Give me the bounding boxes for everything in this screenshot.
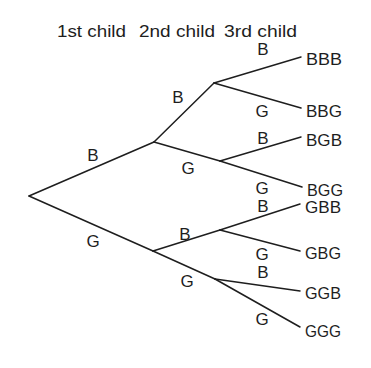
branch-label-gg: G (180, 272, 193, 291)
branch-label-b: B (87, 146, 98, 165)
branch-label-bgb: B (257, 129, 268, 148)
outcome-ggg: GGG (305, 322, 341, 341)
branch-label-bbg: G (255, 102, 268, 121)
branch-label-gbg: G (255, 245, 268, 264)
branch-label-ggg: G (255, 310, 268, 329)
branch-label-bb: B (172, 88, 183, 107)
branch-edge-bbb (214, 57, 301, 83)
outcome-bbg: BBG (306, 102, 342, 121)
branch-label-bgg: G (255, 179, 268, 198)
outcome-bgb: BGB (306, 131, 342, 150)
branch-label-bbb: B (257, 40, 268, 59)
outcome-gbg: GBG (305, 244, 341, 263)
outcome-ggb: GGB (305, 284, 341, 303)
branch-label-gbb: B (257, 197, 268, 216)
outcome-bbb: BBB (306, 50, 342, 69)
branch-labels: BGBGBGBGBGBGBG (86, 40, 268, 329)
branch-label-ggb: B (257, 263, 268, 282)
probability-tree-diagram: 1st child 2nd child 3rd child BGBGBGBGBG… (0, 0, 371, 368)
branch-edge-bb (154, 83, 214, 142)
branch-label-g: G (86, 232, 99, 251)
branch-label-bg: G (181, 159, 194, 178)
column-headers: 1st child 2nd child 3rd child (57, 22, 297, 41)
header-1st-child: 1st child (57, 22, 126, 41)
header-3rd-child: 3rd child (224, 22, 297, 41)
outcome-gbb: GBB (305, 198, 341, 217)
outcome-labels: BBBBBGBGBBGGGBBGBGGGBGGG (305, 50, 343, 341)
branch-label-gb: B (179, 225, 190, 244)
header-2nd-child: 2nd child (139, 22, 215, 41)
